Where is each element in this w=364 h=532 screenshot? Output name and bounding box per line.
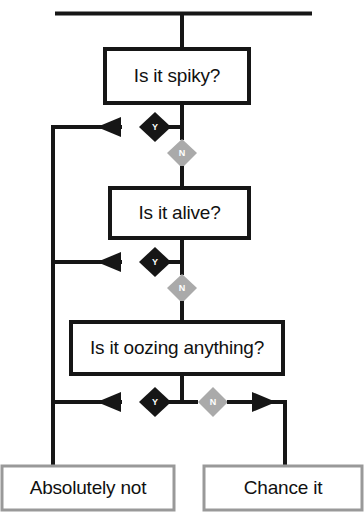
- arrowhead-left-oozing-yes: [97, 392, 121, 412]
- arrowhead-left-spiky-yes: [97, 117, 121, 137]
- arrowhead-right-oozing-no: [252, 392, 276, 412]
- arrowhead-left-alive-yes: [97, 252, 121, 272]
- flowchart-canvas: Is it spiky? Is it alive? Is it oozing a…: [0, 0, 364, 532]
- no-diamond-alive[interactable]: [167, 274, 197, 303]
- question-hit-spiky[interactable]: [105, 49, 249, 103]
- yes-diamond-spiky[interactable]: [139, 112, 171, 142]
- yes-diamond-oozing[interactable]: [139, 387, 171, 417]
- no-diamond-oozing[interactable]: [198, 387, 228, 417]
- question-hit-alive[interactable]: [110, 188, 249, 238]
- no-diamond-spiky[interactable]: [167, 139, 197, 168]
- yes-diamond-alive[interactable]: [139, 247, 171, 277]
- outcome-hit-chance-it[interactable]: [204, 466, 362, 510]
- question-hit-oozing[interactable]: [71, 322, 283, 374]
- outcome-hit-absolutely-not[interactable]: [2, 466, 174, 510]
